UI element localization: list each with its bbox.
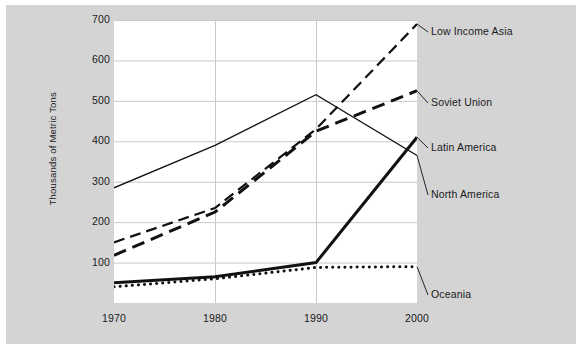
series-label: Low Income Asia xyxy=(431,25,513,37)
series-leader-line xyxy=(417,155,428,195)
series-leader-line xyxy=(417,137,428,148)
series-label: Latin America xyxy=(431,141,497,153)
series-leader-line xyxy=(417,91,428,103)
series-leader-line xyxy=(417,24,428,32)
series-labels-group: Low Income AsiaSoviet UnionLatin America… xyxy=(0,0,582,350)
leader-lines-group xyxy=(0,0,582,350)
series-label: North America xyxy=(431,188,499,200)
series-leader-line xyxy=(417,267,428,295)
chart-figure: 100200300400500600700 1970198019902000 T… xyxy=(0,0,582,350)
series-label: Oceania xyxy=(431,288,471,300)
series-label: Soviet Union xyxy=(431,96,492,108)
